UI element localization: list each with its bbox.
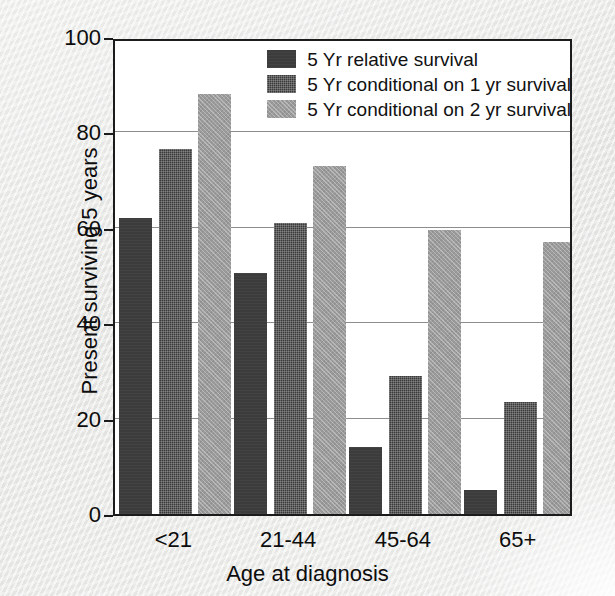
- y-tick-mark: [104, 420, 113, 422]
- legend-item: 5 Yr conditional on 1 yr survival: [267, 73, 571, 95]
- bar: [313, 166, 346, 514]
- bar: [464, 490, 497, 514]
- series-2-swatch: [267, 100, 296, 118]
- x-tick-label: <21: [155, 527, 192, 553]
- y-tick-mark: [104, 515, 113, 517]
- y-axis-title: Present surviving 5 years: [77, 71, 103, 471]
- bar: [159, 149, 192, 514]
- bar: [198, 94, 231, 514]
- legend-label: 5 Yr conditional on 1 yr survival: [307, 75, 571, 94]
- legend-label: 5 Yr relative survival: [307, 50, 478, 69]
- x-tick-label: 21-44: [260, 527, 316, 553]
- bar: [504, 402, 537, 514]
- x-tick-label: 65+: [499, 527, 536, 553]
- bar-group: [119, 41, 231, 514]
- y-tick-label: 0: [89, 504, 101, 526]
- chart-legend: 5 Yr relative survival5 Yr conditional o…: [267, 48, 571, 120]
- series-0-swatch: [267, 50, 296, 68]
- y-axis-title-wrap: Present surviving 5 years: [40, 0, 70, 596]
- figure-root: 020406080100 Present surviving 5 years 5…: [0, 0, 615, 596]
- legend-item: 5 Yr relative survival: [267, 48, 478, 70]
- y-tick-mark: [104, 133, 113, 135]
- legend-item: 5 Yr conditional on 2 yr survival: [267, 98, 571, 120]
- y-tick-mark: [104, 229, 113, 231]
- y-tick-mark: [104, 38, 113, 40]
- bar: [119, 218, 152, 514]
- x-axis-title: Age at diagnosis: [0, 561, 615, 587]
- bar: [428, 230, 461, 514]
- bar: [349, 447, 382, 514]
- bar: [389, 376, 422, 514]
- bar: [234, 273, 267, 514]
- x-tick-label: 45-64: [375, 527, 431, 553]
- bar: [274, 223, 307, 514]
- bar: [543, 242, 570, 514]
- y-tick-mark: [104, 324, 113, 326]
- legend-label: 5 Yr conditional on 2 yr survival: [307, 100, 571, 119]
- series-1-swatch: [267, 75, 296, 93]
